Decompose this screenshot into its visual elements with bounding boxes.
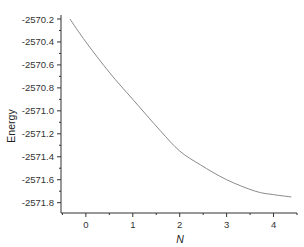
x-tick-label: 3 (224, 219, 229, 230)
x-tick-label: 1 (130, 219, 135, 230)
x-axis-ticks: 01234 (62, 213, 297, 230)
y-tick-label: -2570.2 (22, 14, 54, 25)
x-axis-title: N (176, 233, 184, 245)
y-tick-label: -2570.4 (22, 36, 54, 47)
y-tick-label: -2570.8 (22, 82, 54, 93)
energy-vs-n-chart: -2570.2-2570.4-2570.6-2570.8-2571.0-2571… (0, 0, 304, 247)
y-tick-label: -2570.6 (22, 59, 54, 70)
y-tick-label: -2571.4 (22, 151, 54, 162)
y-tick-label: -2571.2 (22, 128, 54, 139)
y-tick-label: -2571.0 (22, 105, 54, 116)
x-tick-label: 0 (83, 219, 88, 230)
x-tick-label: 4 (271, 219, 276, 230)
y-axis-ticks: -2570.2-2570.4-2570.6-2570.8-2571.0-2571… (22, 14, 61, 209)
y-tick-label: -2571.8 (22, 197, 54, 208)
y-tick-label: -2571.6 (22, 174, 54, 185)
x-tick-label: 2 (177, 219, 182, 230)
y-axis-title: Energy (5, 109, 17, 143)
energy-curve (70, 19, 291, 197)
